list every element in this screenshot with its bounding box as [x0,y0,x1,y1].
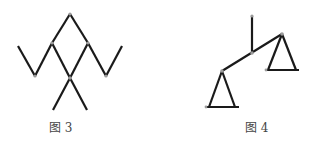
fig3-segment [18,46,35,76]
figure-4-caption: 图 4 [245,121,269,135]
fig3-segment [53,78,70,110]
fig3-joint [33,74,36,77]
fig3-segment [70,43,88,78]
fig4-joint [250,14,253,17]
fig3-joint [86,41,89,44]
fig4-left-pan-side [222,71,235,107]
diagram-canvas: 图 3 图 4 [0,0,310,142]
fig4-joint [205,106,208,109]
fig4-joint [250,51,254,55]
fig3-segment [88,43,106,76]
fig3-segment [52,14,70,43]
fig3-segment [106,46,122,76]
fig3-joint [104,74,107,77]
fig4-joint [220,69,224,73]
fig3-segment [70,78,87,110]
fig3-joint [50,41,53,44]
fig3-joint [68,12,71,15]
fig3-joint [68,76,72,80]
fig4-joint [280,32,284,36]
fig4-right-pan-side [282,34,296,70]
figure-4: 图 4 [205,14,299,135]
figure-3-caption: 图 3 [49,121,72,135]
fig4-left-pan-side [209,71,222,107]
fig3-segment [35,43,52,76]
figure-3: 图 3 [18,12,122,135]
fig3-segment [70,14,88,43]
fig3-segment [52,43,70,78]
fig4-joint [265,69,268,72]
